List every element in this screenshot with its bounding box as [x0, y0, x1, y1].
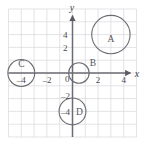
y-tick-minus2: –2 — [60, 91, 70, 101]
circle-b-label: B — [90, 58, 96, 68]
y-tick-2: 2 — [63, 43, 68, 53]
x-tick-4: 4 — [121, 75, 126, 85]
y-tick-minus4: –4 — [60, 107, 71, 117]
y-axis-label: y — [69, 2, 75, 13]
circle-c-label: C — [18, 59, 24, 69]
x-tick-minus2: –2 — [41, 75, 51, 85]
x-tick-2: 2 — [96, 75, 101, 85]
x-tick-minus4: –4 — [16, 75, 27, 85]
coordinate-plane-figure: A B C D –4 –2 2 4 4 2 –2 –4 0 x y — [0, 0, 145, 146]
origin-label: 0 — [65, 74, 70, 84]
y-tick-4: 4 — [63, 30, 68, 40]
x-axis-label: x — [134, 68, 140, 79]
circle-d-label: D — [76, 107, 83, 117]
circle-a-label: A — [107, 34, 114, 44]
coordinate-plot: A B C D –4 –2 2 4 4 2 –2 –4 0 x y — [0, 0, 145, 146]
